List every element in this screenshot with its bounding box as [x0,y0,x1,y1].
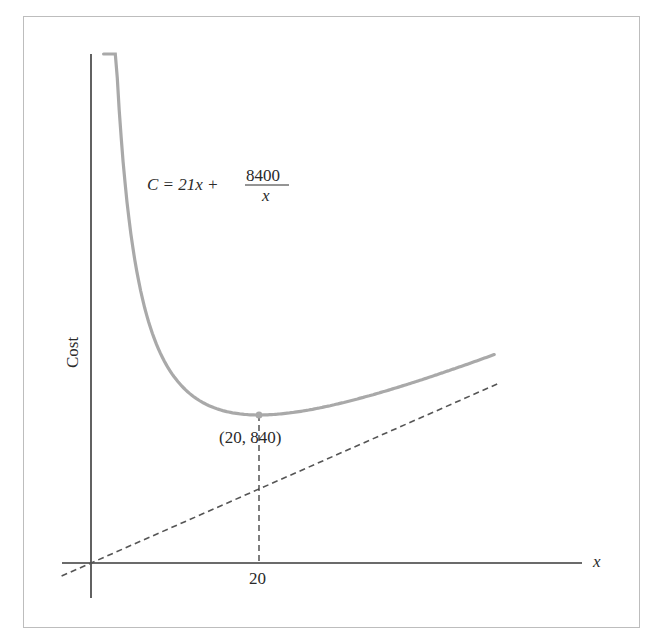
chart-canvas: (20, 840) 20 x Cost C = 21x + 8400 x [0,0,661,643]
equation-lhs: C = 21x + [147,175,219,194]
x-axis-label: x [592,552,601,571]
y-axis-label: Cost [63,337,82,368]
equation-denominator: x [261,186,270,205]
minimum-point-marker [256,412,263,419]
min-point-label: (20, 840) [219,428,281,447]
cost-curve [104,54,495,415]
equation-numerator: 8400 [246,166,280,185]
x-tick-20: 20 [249,569,266,588]
